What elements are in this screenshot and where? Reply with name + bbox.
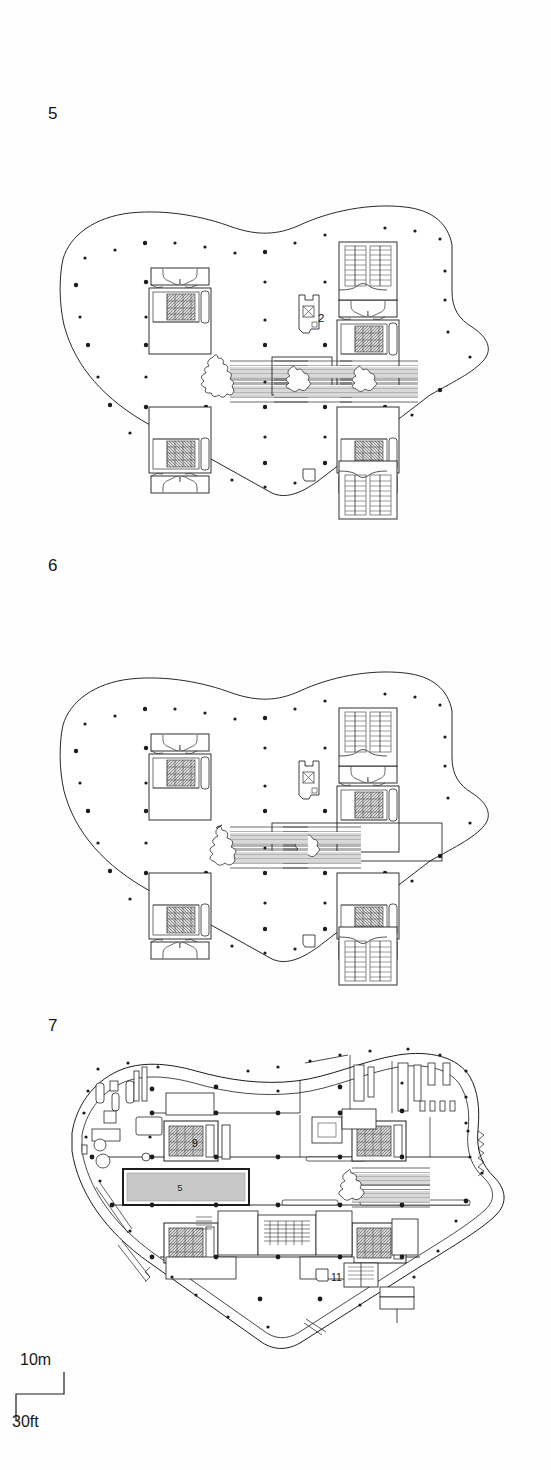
plan-7-annotation-pool: 5 [177, 1182, 182, 1193]
plan-5-drawing: 2 [0, 95, 551, 535]
plan-7-canopy [305, 1055, 348, 1063]
plan-6-stair-north [339, 708, 397, 766]
plan-5-annotation-2: 2 [318, 312, 324, 324]
plan-7-core-northwest [164, 1121, 218, 1161]
scale-metric-label: 10m [20, 1352, 51, 1368]
plan-5-core-northwest [149, 268, 211, 354]
drawing-sheet: 5 [0, 0, 551, 1470]
plan-7-annotation-11: 11 [331, 1271, 342, 1283]
plan-6-core-northwest [149, 734, 211, 820]
plan-5-duct [303, 469, 315, 481]
plan-7-south-wing [380, 1287, 414, 1323]
plan-7-stair-south [344, 1263, 378, 1287]
floor-plan-7: 7 [0, 1005, 551, 1350]
plan-6-stair-south [339, 927, 397, 985]
plan-6-service-unit [299, 761, 319, 799]
plan-5-outline [60, 206, 488, 496]
plan-6-outline [60, 672, 488, 962]
plan-5-service-unit [299, 295, 319, 333]
plan-5-stair-north [339, 242, 397, 300]
scale-imperial-label: 30ft [12, 1414, 39, 1430]
plan-7-annotation-9: 9 [192, 1137, 198, 1149]
plan-6-duct [303, 935, 315, 947]
scale-bar: 10m 30ft [12, 1352, 142, 1457]
plan-5-core-southwest [149, 407, 211, 493]
floor-plan-5: 5 [0, 95, 551, 535]
plan-7-duct [316, 1269, 328, 1281]
plan-7-pool [122, 1168, 250, 1206]
plan-6-drawing [0, 545, 551, 995]
floor-plan-6: 6 [0, 545, 551, 995]
plan-7-drawing: 5 9 [0, 1005, 551, 1350]
plan-5-stair-south [339, 461, 397, 519]
plan-6-core-southwest [149, 873, 211, 959]
